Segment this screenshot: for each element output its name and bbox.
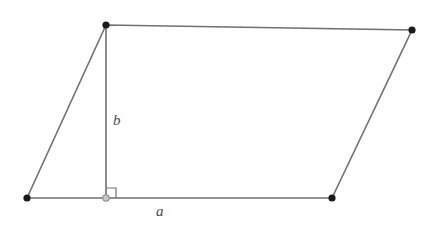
bottom-left-vertex <box>23 194 30 201</box>
top-left-vertex <box>102 21 109 28</box>
parallelogram-outline <box>27 25 412 198</box>
top-right-vertex <box>408 26 415 33</box>
base-label-a: a <box>156 204 164 219</box>
bottom-right-vertex <box>328 194 335 201</box>
geometry-figure: b a <box>0 0 437 231</box>
parallelogram-svg-canvas <box>0 0 437 231</box>
altitude-foot-point <box>103 195 109 201</box>
height-label-b: b <box>113 113 121 128</box>
